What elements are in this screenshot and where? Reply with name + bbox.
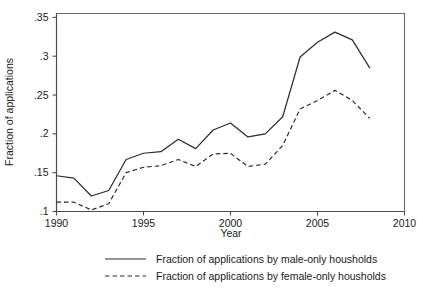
y-axis-ticks: .1.15.2.25.3.35 — [34, 11, 57, 217]
line-chart-figure: .1.15.2.25.3.35 19901995200020052010 Yea… — [0, 0, 423, 294]
x-axis-title: Year — [220, 227, 242, 239]
plot-frame-border — [57, 14, 405, 212]
legend-entry-male-only: Fraction of applications by male-only ho… — [105, 253, 377, 265]
y-tick-label: .1 — [40, 205, 49, 217]
x-axis-ticks: 19901995200020052010 — [45, 212, 417, 229]
x-tick-label: 1990 — [45, 217, 69, 229]
x-tick-label: 2005 — [306, 217, 330, 229]
series-group — [57, 32, 370, 210]
legend-label-male-only: Fraction of applications by male-only ho… — [156, 253, 377, 265]
legend-entry-female-only: Fraction of applications by female-only … — [105, 270, 386, 282]
y-axis-group: .1.15.2.25.3.35 — [34, 11, 57, 217]
x-tick-label: 1995 — [132, 217, 156, 229]
y-axis-title: Fraction of applications — [3, 58, 15, 166]
chart-container: .1.15.2.25.3.35 19901995200020052010 Yea… — [0, 0, 423, 294]
y-tick-label: .2 — [40, 127, 49, 139]
y-tick-label: .35 — [34, 11, 49, 23]
y-tick-label: .25 — [34, 89, 49, 101]
y-tick-label: .3 — [40, 50, 49, 62]
series-male-only-line — [57, 32, 370, 196]
y-tick-label: .15 — [34, 166, 49, 178]
x-tick-label: 2010 — [393, 217, 417, 229]
x-axis-group: 19901995200020052010 — [45, 212, 417, 229]
legend-label-female-only: Fraction of applications by female-only … — [156, 270, 386, 282]
legend: Fraction of applications by male-only ho… — [105, 253, 386, 282]
plot-frame — [57, 14, 405, 212]
